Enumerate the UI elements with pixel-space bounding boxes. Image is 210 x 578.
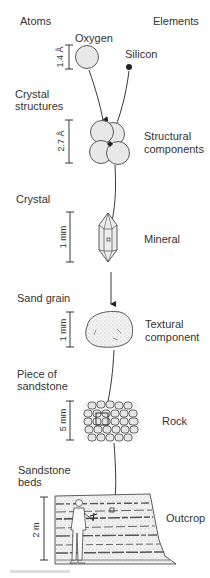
- oxygen-to-structure-arrow: [89, 70, 103, 120]
- sandstone-scale-bar: 5 mm: [58, 401, 74, 440]
- structural-components-label-1: Structural: [144, 130, 191, 142]
- rock-hierarchy-diagram: Atoms Elements Oxygen 1.4 Å Silicon Crys…: [0, 0, 210, 578]
- atoms-column-header: Atoms: [20, 15, 52, 27]
- svg-text:5 mm: 5 mm: [58, 409, 68, 432]
- figure-caption-fragment: [10, 570, 70, 573]
- textural-component-label-1: Textural: [145, 318, 184, 330]
- svg-text:1 mm: 1 mm: [58, 319, 68, 342]
- crystal-structures-label-2: structures: [15, 100, 64, 112]
- piece-of-sandstone-label-2: sandstone: [17, 380, 68, 392]
- structural-components-label-2: components: [144, 143, 204, 155]
- textural-component-label-2: component: [145, 331, 199, 343]
- sand-grain-scale-bar: 1 mm: [58, 312, 74, 347]
- silicon-atom-icon: [126, 64, 132, 70]
- svg-text:1 mm: 1 mm: [58, 226, 68, 249]
- crystal-structures-label-1: Crystal: [15, 88, 49, 100]
- oxygen-label: Oxygen: [75, 32, 113, 44]
- structure-to-crystal-line: [112, 165, 116, 222]
- sand-grain-icon: [86, 311, 133, 347]
- svg-text:2.7 Å: 2.7 Å: [56, 130, 66, 151]
- mineral-label: Mineral: [144, 233, 180, 245]
- sandstone-grains-icon: [83, 401, 139, 441]
- oxygen-scale-bar: 1.4 Å: [55, 45, 73, 69]
- silicon-label: Silicon: [125, 48, 157, 60]
- rock-label: Rock: [162, 415, 188, 427]
- outcrop-scale-bar: 2 m: [31, 497, 48, 560]
- outcrop-label: Outcrop: [166, 512, 205, 524]
- sand-grain-label: Sand grain: [17, 292, 70, 304]
- piece-of-sandstone-label-1: Piece of: [17, 368, 58, 380]
- sandstone-beds-label-2: beds: [18, 476, 42, 488]
- quartz-crystal-icon: [99, 213, 117, 262]
- oxygen-atom-icon: [76, 46, 99, 69]
- svg-text:1.4 Å: 1.4 Å: [55, 46, 65, 67]
- crystal-structure-scale-bar: 2.7 Å: [56, 120, 73, 163]
- tetrahedron-structure-icon: [90, 121, 130, 165]
- crystal-label: Crystal: [16, 193, 50, 205]
- sandstone-beds-label-1: Sandstone: [18, 464, 71, 476]
- crystal-scale-bar: 1 mm: [58, 212, 74, 262]
- svg-text:2 m: 2 m: [31, 522, 41, 537]
- elements-column-header: Elements: [153, 15, 199, 27]
